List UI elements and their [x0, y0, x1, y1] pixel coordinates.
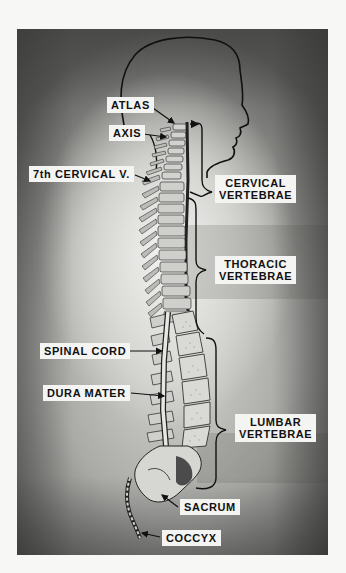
label-lumbar-line1: LUMBAR: [239, 416, 312, 428]
coccyx-leader: [142, 533, 160, 537]
label-thoracic-line2: VERTEBRAE: [219, 270, 292, 282]
label-spinal-cord-text: SPINAL CORD: [44, 345, 126, 357]
label-spinal-cord: SPINAL CORD: [40, 343, 130, 359]
label-dura-mater: DURA MATER: [43, 385, 130, 401]
label-thoracic-line1: THORACIC: [219, 258, 292, 270]
label-axis: AXIS: [109, 125, 145, 141]
axis-leader: [143, 134, 166, 137]
label-axis-text: AXIS: [113, 127, 141, 139]
label-cervical-line1: CERVICAL: [219, 177, 292, 189]
label-lumbar-line2: VERTEBRAE: [239, 428, 312, 440]
label-lumbar-vertebrae: LUMBAR VERTEBRAE: [235, 414, 316, 442]
label-seventh-cervical: 7th CERVICAL V.: [29, 166, 134, 182]
seventh-cervical-leader: [135, 175, 150, 181]
label-cervical-vertebrae: CERVICAL VERTEBRAE: [215, 175, 296, 203]
label-atlas: ATLAS: [107, 97, 154, 113]
label-coccyx-text: COCCYX: [166, 532, 217, 544]
label-seventh-cervical-text: 7th CERVICAL V.: [33, 168, 130, 180]
label-sacrum-text: SACRUM: [184, 501, 236, 513]
spine-illustration: [0, 0, 346, 573]
cervical-bracket: [190, 123, 212, 196]
label-sacrum: SACRUM: [180, 499, 240, 515]
label-thoracic-vertebrae: THORACIC VERTEBRAE: [215, 256, 296, 284]
label-dura-mater-text: DURA MATER: [47, 387, 126, 399]
label-cervical-line2: VERTEBRAE: [219, 189, 292, 201]
label-atlas-text: ATLAS: [111, 99, 150, 111]
vertebral-column: [127, 122, 210, 538]
label-coccyx: COCCYX: [162, 530, 221, 546]
